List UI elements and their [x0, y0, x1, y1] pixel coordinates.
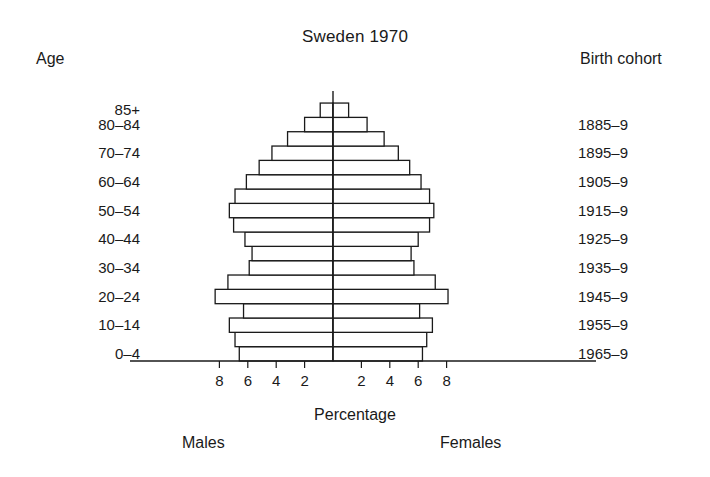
bar-female	[333, 203, 434, 217]
bar-female	[333, 189, 430, 203]
bar-male	[305, 117, 333, 131]
x-axis-title: Percentage	[0, 406, 710, 424]
bar-female	[333, 318, 432, 332]
bar-female	[333, 289, 448, 303]
x-tick-label: 6	[238, 372, 258, 389]
bar-female	[333, 117, 367, 131]
bar-male	[259, 160, 333, 174]
bar-female	[333, 232, 418, 246]
bar-female	[333, 103, 349, 117]
bar-female	[333, 175, 421, 189]
bar-male	[228, 275, 333, 289]
bar-male	[246, 175, 333, 189]
bar-male	[235, 189, 333, 203]
bar-male	[249, 261, 333, 275]
x-tick-label: 4	[266, 372, 286, 389]
bar-male	[215, 289, 333, 303]
bar-female	[333, 304, 420, 318]
x-tick-label: 8	[209, 372, 229, 389]
bar-male	[272, 146, 333, 160]
bar-female	[333, 261, 414, 275]
bar-female	[333, 160, 410, 174]
bar-male	[239, 347, 333, 361]
bar-male	[234, 218, 333, 232]
bar-male	[244, 304, 333, 318]
bar-male	[245, 232, 333, 246]
population-pyramid-chart: Sweden 1970 Age Birth cohort 85+80–8470–…	[0, 0, 710, 477]
bar-female	[333, 347, 422, 361]
bars-group	[215, 103, 448, 361]
bar-male	[235, 332, 333, 346]
bar-male	[229, 203, 333, 217]
bar-female	[333, 275, 435, 289]
x-tick-label: 6	[408, 372, 428, 389]
x-tick-label: 4	[380, 372, 400, 389]
x-tick-label: 8	[437, 372, 457, 389]
bar-male	[252, 246, 333, 260]
bar-female	[333, 132, 384, 146]
bar-female	[333, 218, 430, 232]
bar-female	[333, 146, 398, 160]
bar-male	[320, 103, 333, 117]
males-series-label: Males	[182, 434, 225, 452]
x-tick-label: 2	[351, 372, 371, 389]
bar-female	[333, 332, 427, 346]
bar-male	[288, 132, 333, 146]
bar-male	[229, 318, 333, 332]
females-series-label: Females	[440, 434, 501, 452]
bar-female	[333, 246, 411, 260]
x-tick-label: 2	[295, 372, 315, 389]
